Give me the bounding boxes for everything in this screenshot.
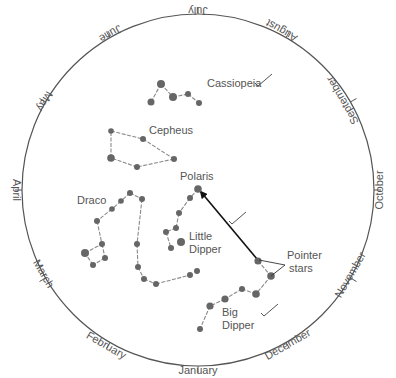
little-dipper-star [163, 229, 169, 235]
draco-star [134, 241, 140, 247]
check-mark-icon [229, 212, 246, 224]
draco-line [97, 221, 102, 244]
cepheus-line [143, 139, 174, 159]
little-dipper-star [173, 225, 179, 231]
month-tick [350, 99, 356, 103]
little-dipper-label: Little [189, 230, 212, 242]
draco-star [135, 264, 141, 270]
draco-label: Draco [77, 194, 106, 206]
draco-star [99, 241, 105, 247]
cepheus-star [140, 136, 146, 142]
draco-star [194, 268, 200, 274]
cassiopeia-star [148, 99, 155, 106]
stars [81, 80, 275, 332]
cassiopeia-star [196, 100, 202, 106]
little-dipper-star [177, 238, 185, 246]
cepheus-line [111, 158, 137, 167]
little-dipper-star [176, 210, 182, 216]
draco-star [90, 262, 96, 268]
cepheus-label: Cepheus [149, 124, 194, 136]
month-label-december: December [262, 326, 312, 362]
pointer-stars-annotation: Pointer stars [259, 249, 322, 276]
big-dipper-label-line2: Dipper [222, 319, 255, 331]
check-mark-icon [261, 304, 278, 316]
little-dipper-star [194, 185, 202, 193]
cepheus-line [137, 159, 174, 167]
cepheus-star [171, 156, 177, 162]
big-dipper-label: Big [222, 306, 238, 318]
month-label-june: June [97, 23, 124, 45]
month-label-january: January [178, 364, 218, 376]
big-dipper-star [252, 290, 260, 298]
month-label-september: September [323, 74, 360, 127]
draco-star [118, 198, 124, 204]
pointer-stars-label-line2: stars [289, 262, 313, 274]
draco-star [127, 190, 133, 196]
month-label-august: August [264, 17, 300, 45]
cassiopeia-star [157, 80, 165, 88]
pointer-stars-label-line1: Pointer [287, 249, 322, 261]
draco-star [187, 272, 193, 278]
cepheus-star [134, 164, 140, 170]
month-label-october: October [373, 170, 385, 209]
big-dipper-star [254, 257, 261, 264]
month-label-november: November [332, 249, 368, 299]
polaris-label: Polaris [180, 170, 214, 182]
month-label-may: May [34, 90, 55, 114]
star-chart: JulyAugustSeptemberOctoberNovemberDecemb… [0, 0, 396, 378]
draco-star [141, 276, 147, 282]
little-dipper-label-line2: Dipper [189, 243, 222, 255]
month-label-march: March [31, 257, 57, 289]
draco-star [94, 218, 100, 224]
draco-star [102, 255, 108, 261]
draco-line [137, 244, 138, 267]
big-dipper-star [197, 326, 203, 332]
draco-star [153, 281, 159, 287]
big-dipper-star [239, 286, 245, 292]
cepheus-star [107, 154, 115, 162]
big-dipper-line [200, 306, 210, 329]
big-dipper-star [221, 295, 228, 302]
cepheus-line [111, 131, 143, 139]
draco-line [156, 275, 190, 284]
month-label-july: July [188, 5, 208, 17]
cassiopeia-label: Cassiopeia [207, 77, 262, 89]
draco-star [109, 206, 115, 212]
month-label-february: February [84, 329, 129, 362]
little-dipper-star [187, 195, 193, 201]
draco-line [137, 199, 142, 244]
big-dipper-star [206, 302, 213, 309]
draco-star [81, 249, 89, 257]
little-dipper-star [168, 245, 174, 251]
cassiopeia-star [185, 91, 191, 97]
draco-star [139, 196, 145, 202]
cepheus-star [108, 128, 114, 134]
cassiopeia-star [169, 93, 177, 101]
month-label-april: April [11, 179, 23, 201]
